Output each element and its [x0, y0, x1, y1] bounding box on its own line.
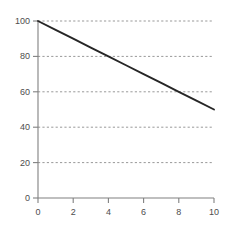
gridlines [38, 21, 214, 163]
x-tick-label-4: 4 [98, 207, 118, 217]
chart-canvas [0, 0, 227, 228]
y-tick-label-0: 0 [0, 193, 30, 203]
x-axis [38, 198, 214, 203]
x-tick-label-0: 0 [28, 207, 48, 217]
line-chart: 100 80 60 40 20 0 0 2 4 6 8 10 [0, 0, 227, 228]
x-tick-label-8: 8 [169, 207, 189, 217]
x-tick-label-6: 6 [134, 207, 154, 217]
y-tick-label-40: 40 [0, 122, 30, 132]
data-line-series-1 [38, 21, 214, 110]
x-tick-label-2: 2 [63, 207, 83, 217]
x-tick-label-10: 10 [204, 207, 224, 217]
y-tick-label-20: 20 [0, 158, 30, 168]
y-tick-label-60: 60 [0, 87, 30, 97]
y-tick-label-100: 100 [0, 16, 30, 26]
y-axis [33, 21, 38, 198]
y-tick-label-80: 80 [0, 51, 30, 61]
